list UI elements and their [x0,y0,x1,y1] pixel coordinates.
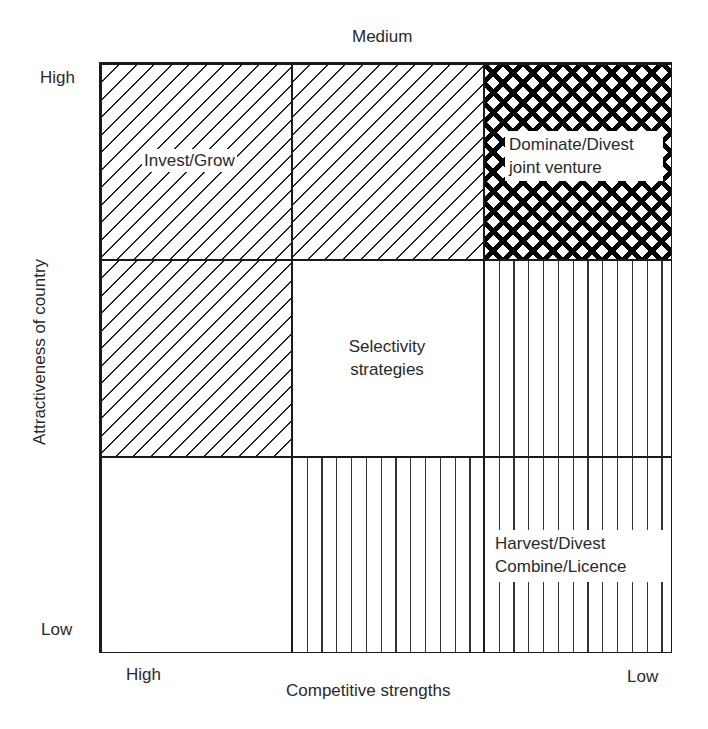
cell-label: Selectivity strategies [293,335,481,381]
cell-label-line2: strategies [293,358,481,381]
cell-invest-grow: Invest/Grow [101,64,292,260]
cell-label-line2: joint venture [509,156,659,179]
cell-low-high [101,457,292,653]
medium-label: Medium [352,27,412,47]
cell-label-line2: Combine/Licence [495,555,665,578]
y-axis-low-label: Low [41,620,72,640]
x-axis-low-label: Low [627,667,658,687]
cell-dominate-divest: Dominate/Divest joint venture [484,64,672,260]
y-axis-title: Attractiveness of country [30,259,50,445]
cell-label: Invest/Grow [142,149,237,172]
cell-high-medium [292,64,484,260]
y-axis-high-label: High [40,68,75,88]
cell-medium-high [101,260,292,457]
cell-label: Dominate/Divest joint venture [505,131,663,181]
cell-harvest-divest: Harvest/Divest Combine/Licence [484,457,672,653]
cell-medium-low [484,260,672,457]
cell-label-line1: Dominate/Divest [509,133,659,156]
cell-low-medium [292,457,484,653]
x-axis-title: Competitive strengths [286,681,450,701]
strategy-matrix: Invest/Grow Dominate/Divest joint ventur… [99,62,672,653]
cell-selectivity: Selectivity strategies [292,260,484,457]
cell-label-line1: Selectivity [293,335,481,358]
cell-label: Harvest/Divest Combine/Licence [491,530,669,582]
cell-label-line1: Harvest/Divest [495,532,665,555]
x-axis-high-label: High [126,665,161,685]
